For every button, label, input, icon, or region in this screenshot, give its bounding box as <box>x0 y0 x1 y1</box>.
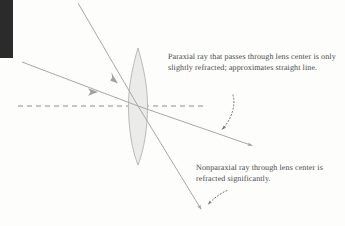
paraxial-refracted-ray <box>138 106 252 146</box>
paraxial-caption: Paraxial ray that passes through lens ce… <box>168 52 340 73</box>
optics-ray-diagram: Paraxial ray that passes through lens ce… <box>0 0 345 226</box>
nonparaxial-caption: Nonparaxial ray through lens center is r… <box>196 163 344 184</box>
nonparaxial-leader-arrow <box>209 191 228 205</box>
diagram-canvas <box>0 0 345 226</box>
paraxial-incident-ray <box>22 62 138 106</box>
nonparaxial-refracted-ray <box>138 106 201 209</box>
nonparaxial-incident-ray <box>78 3 138 106</box>
paraxial-leader-arrow <box>223 95 234 129</box>
nonparaxial-incident-arrowhead <box>110 72 118 83</box>
